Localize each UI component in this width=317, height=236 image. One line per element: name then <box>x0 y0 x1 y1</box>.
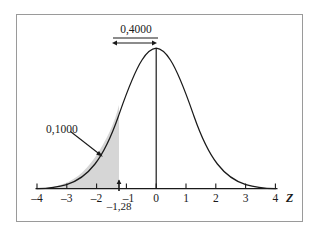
peak-measure-arrowhead-right <box>152 41 157 46</box>
normal-distribution-figure: 0,4000 0,1000 –1,28 –4 –3 –2 –1 0 1 2 3 … <box>0 0 317 236</box>
x-tick-label-minus2: –2 <box>85 193 109 205</box>
x-tick-label-minus3: –3 <box>55 193 79 205</box>
peak-density-label: 0,4000 <box>105 24 167 36</box>
x-tick-label-3: 3 <box>234 193 258 205</box>
x-tick-label-1: 1 <box>174 193 198 205</box>
x-tick-label-2: 2 <box>204 193 228 205</box>
shaded-tail-region <box>37 105 119 189</box>
x-tick-label-0: 0 <box>144 193 168 205</box>
x-tick-label-4: 4 <box>263 193 287 205</box>
x-axis-name-label: Z <box>286 192 293 204</box>
x-tick-label-minus4: –4 <box>25 193 49 205</box>
tail-area-label: 0,1000 <box>46 124 78 136</box>
x-tick-label-minus1: –1 <box>116 193 140 205</box>
peak-measure-arrowhead-left <box>112 41 117 46</box>
